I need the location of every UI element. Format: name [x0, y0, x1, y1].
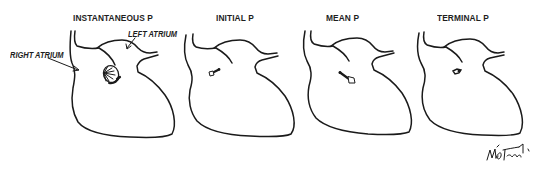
- instantaneous-p-loop-icon: [101, 63, 121, 84]
- heart-outline-2: [185, 34, 294, 137]
- initial-p-vector-icon: [209, 68, 220, 76]
- p-wave-vector-diagram: INSTANTANEOUS P INITIAL P MEAN P TERMINA…: [0, 0, 535, 169]
- heart-outline-4: [418, 32, 523, 136]
- diagram-canvas: [0, 0, 535, 169]
- mean-p-vector-icon: [339, 71, 356, 83]
- heart-outline-3: [304, 31, 412, 135]
- heart-outline-1: [48, 31, 174, 138]
- terminal-p-vector-icon: [453, 69, 461, 74]
- artist-signature-icon: [483, 141, 535, 165]
